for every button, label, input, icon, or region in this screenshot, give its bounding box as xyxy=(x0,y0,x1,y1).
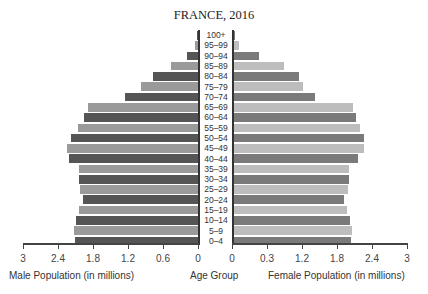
female-bar xyxy=(233,72,299,81)
female-bar xyxy=(233,144,364,153)
female-bar xyxy=(233,216,350,225)
age-group-label: 30–34 xyxy=(199,174,233,184)
female-tick-label: 3 xyxy=(392,253,422,264)
male-bar xyxy=(187,52,198,61)
male-axis-tick xyxy=(93,243,94,249)
age-group-label: 35–39 xyxy=(199,164,233,174)
male-bar xyxy=(141,82,198,91)
male-axis-tick xyxy=(198,243,199,249)
age-group-label: 55–59 xyxy=(199,123,233,133)
male-axis-label: Male Population (in millions) xyxy=(9,270,134,281)
male-tick-label: 1.2 xyxy=(113,253,143,264)
female-tick-label: 1.8 xyxy=(322,253,352,264)
male-axis-tick xyxy=(58,243,59,249)
male-tick-label: 1.8 xyxy=(78,253,108,264)
age-group-label: 75–79 xyxy=(199,82,233,92)
male-bar xyxy=(88,103,198,112)
male-zero-line xyxy=(198,30,200,245)
male-bar xyxy=(78,124,198,133)
male-bar xyxy=(84,113,198,122)
age-group-label: 65–69 xyxy=(199,102,233,112)
age-group-label: 0–4 xyxy=(199,236,233,246)
age-group-label: 5–9 xyxy=(199,226,233,236)
male-bar xyxy=(171,62,198,71)
age-group-label: 80–84 xyxy=(199,71,233,81)
male-bar xyxy=(83,195,198,204)
age-group-label: 95–99 xyxy=(199,40,233,50)
female-bar xyxy=(233,185,348,194)
male-bar xyxy=(74,226,198,235)
male-bar xyxy=(79,206,198,215)
female-zero-line xyxy=(232,30,234,245)
age-group-label: 60–64 xyxy=(199,112,233,122)
male-bar xyxy=(67,144,198,153)
female-axis-tick xyxy=(337,243,338,249)
female-bar xyxy=(233,195,344,204)
male-bar xyxy=(80,185,198,194)
female-bar xyxy=(233,226,352,235)
female-bar xyxy=(233,206,347,215)
age-axis-label: Age Group xyxy=(190,270,238,281)
female-axis xyxy=(232,243,408,245)
male-bar xyxy=(153,72,198,81)
female-bar xyxy=(233,41,239,50)
male-bar xyxy=(79,175,198,184)
age-group-label: 10–14 xyxy=(199,215,233,225)
age-group-label: 85–89 xyxy=(199,61,233,71)
female-bar xyxy=(233,154,358,163)
female-tick-label: 2.4 xyxy=(357,253,387,264)
age-group-label: 50–54 xyxy=(199,133,233,143)
female-bar xyxy=(233,124,360,133)
male-tick-label: 3 xyxy=(8,253,38,264)
male-bar xyxy=(79,165,198,174)
female-axis-tick xyxy=(407,243,408,249)
female-bar xyxy=(233,103,353,112)
male-axis-tick xyxy=(23,243,24,249)
female-bar xyxy=(233,175,349,184)
age-group-label: 15–19 xyxy=(199,205,233,215)
male-tick-label: 0.6 xyxy=(148,253,178,264)
female-bar xyxy=(233,93,315,102)
female-tick-label: 0.3 xyxy=(252,253,282,264)
male-tick-label: 0 xyxy=(183,253,213,264)
age-group-label: 40–44 xyxy=(199,154,233,164)
male-bar xyxy=(125,93,198,102)
female-tick-label: 0 xyxy=(217,253,247,264)
age-group-label: 45–49 xyxy=(199,143,233,153)
female-tick-label: 1.2 xyxy=(287,253,317,264)
male-bar xyxy=(69,154,198,163)
female-axis-tick xyxy=(232,243,233,249)
female-bar xyxy=(233,62,284,71)
male-axis xyxy=(23,243,199,245)
male-axis-tick xyxy=(128,243,129,249)
female-axis-tick xyxy=(302,243,303,249)
age-group-label: 70–74 xyxy=(199,92,233,102)
male-bar xyxy=(76,216,198,225)
age-group-label: 100+ xyxy=(199,30,233,40)
female-axis-label: Female Population (in millions) xyxy=(268,270,405,281)
female-axis-tick xyxy=(267,243,268,249)
age-group-label: 90–94 xyxy=(199,51,233,61)
female-bar xyxy=(233,134,364,143)
male-tick-label: 2.4 xyxy=(43,253,73,264)
age-group-label: 25–29 xyxy=(199,184,233,194)
female-bar xyxy=(233,52,259,61)
male-bar xyxy=(71,134,198,143)
female-bar xyxy=(233,113,356,122)
chart-title: FRANCE, 2016 xyxy=(0,8,428,23)
male-axis-tick xyxy=(163,243,164,249)
age-group-label: 20–24 xyxy=(199,195,233,205)
female-bar xyxy=(233,165,349,174)
female-axis-tick xyxy=(372,243,373,249)
female-bar xyxy=(233,82,303,91)
